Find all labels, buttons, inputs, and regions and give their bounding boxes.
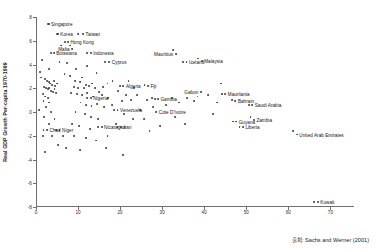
data-point-labeled [317,201,319,203]
source-note: 출처: Sachs and Werner (2001) [292,236,369,244]
data-point [119,85,121,87]
data-point-label: Mauritius [154,51,173,56]
data-point [62,135,64,137]
data-point [113,109,115,111]
data-point [314,201,316,203]
data-point-labeled [251,104,253,106]
data-point [50,111,52,113]
data-point [117,90,119,92]
data-point [55,92,57,94]
data-point [54,85,56,87]
x-tick-label: 10 [75,210,80,215]
data-point [64,73,66,75]
data-point [292,130,294,132]
y-tick-label: -6 [28,181,32,186]
data-point [65,147,67,149]
x-tick-label: 50 [244,210,249,215]
x-tick-label: 70 [328,210,333,215]
data-point [102,86,104,88]
data-point-labeled [157,98,159,100]
data-point [159,125,161,127]
data-point [40,77,42,79]
data-point-labeled [186,61,188,63]
data-point [70,75,72,77]
data-point [128,80,130,82]
data-point [208,94,210,96]
data-point-label: Gabon [184,89,198,94]
data-point [122,154,124,156]
data-point [43,100,45,102]
data-point [81,77,83,79]
data-point-label: Niger [62,127,73,132]
data-point-label: Hong Kong [70,39,93,44]
data-point-label: Cyprus [112,60,127,65]
data-point-label: Taiwan [86,31,101,36]
data-point-labeled [48,23,50,25]
data-point-label: Malaysia [204,58,223,63]
data-point-label: Nicaragua [104,125,125,130]
data-point-label: Venezuela [120,107,142,112]
data-point [70,92,72,94]
data-point [107,83,109,85]
data-point-label: Zambia [256,118,272,123]
data-point [49,123,51,125]
data-point-labeled [46,129,48,131]
y-tick-label: 4 [29,62,32,67]
data-point [51,84,53,86]
data-point-label: Bahrain [238,99,254,104]
data-point-labeled [82,33,84,35]
data-point [70,45,72,47]
data-point [130,99,132,101]
data-point-label: Iceland [189,60,204,65]
data-point [144,84,146,86]
data-point [136,94,138,96]
data-point [75,111,77,113]
y-tick [33,17,36,18]
data-point-labeled [147,85,149,87]
data-point [38,109,40,111]
data-point-labeled [90,97,92,99]
data-point [85,137,87,139]
data-point [52,91,54,93]
data-point-label: United Arab Emirates [299,132,343,137]
data-point-label: Liberia [245,125,259,130]
data-point-label: Nigeria [93,95,108,100]
data-point [91,105,93,107]
data-point [74,80,76,82]
y-tick-label: -4 [28,157,32,162]
scatter-chart-figure: Real GDP Growth Per-capita 1970-1999 864… [0,0,377,250]
data-point [107,135,109,137]
data-point [96,103,98,105]
y-tick [33,160,36,161]
data-point-label: Guyana [239,119,255,124]
data-point [41,59,43,61]
data-point-labeled [57,33,59,35]
data-point-labeled [242,126,244,128]
y-tick-label: 2 [29,86,32,91]
data-point [88,85,90,87]
data-point [184,123,186,125]
data-point [59,61,61,63]
data-point [132,118,134,120]
data-point [154,98,156,100]
data-point-label: Gambia [160,96,176,101]
x-tick-label: 30 [160,210,165,215]
data-point [125,94,127,96]
data-point [73,135,75,137]
data-point [91,83,93,85]
data-point [104,61,106,63]
data-point [77,33,79,35]
data-point-label: Chad [49,127,60,132]
data-point [98,91,100,93]
data-point [220,83,222,85]
data-point [105,147,107,149]
data-point [56,83,58,85]
y-tick [33,41,36,42]
data-point-labeled [108,61,110,63]
data-point [76,93,78,95]
data-point [146,99,148,101]
y-tick [33,183,36,184]
data-point [84,113,86,115]
y-tick [33,65,36,66]
data-point [57,144,59,146]
